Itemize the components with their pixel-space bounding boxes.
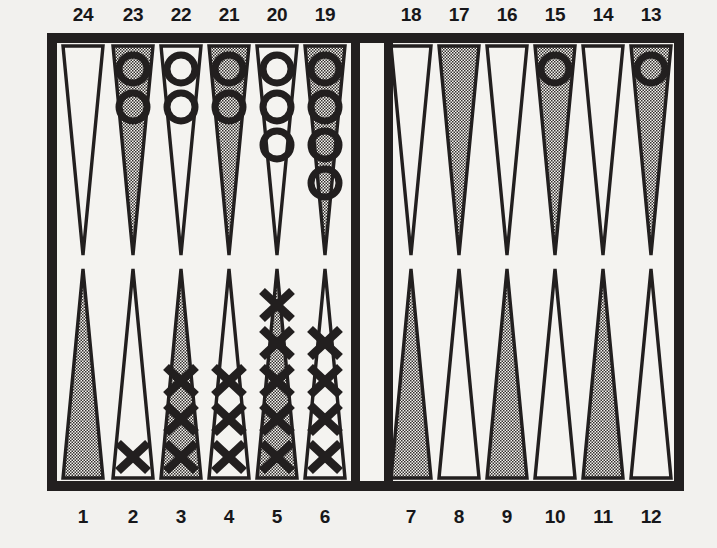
checker-x-point-3[interactable]	[161, 399, 201, 439]
checker-x-point-4[interactable]	[209, 437, 249, 477]
point-triangle	[439, 269, 479, 478]
quadrant-top-left	[57, 43, 351, 262]
point-number-15: 15	[535, 2, 575, 28]
checker-x-point-6[interactable]	[305, 361, 345, 401]
quadrant-bottom-left	[57, 262, 351, 481]
point-10[interactable]	[533, 266, 577, 481]
point-triangle	[535, 269, 575, 478]
checker-x-point-5[interactable]	[257, 323, 297, 363]
point-number-3: 3	[161, 504, 201, 530]
point-7[interactable]	[389, 266, 433, 481]
point-17[interactable]	[437, 43, 481, 258]
board-playing-surface	[57, 43, 674, 481]
checker-o-point-21[interactable]	[209, 87, 249, 127]
point-number-4: 4	[209, 504, 249, 530]
point-triangle	[63, 269, 103, 478]
checker-x-point-4[interactable]	[209, 361, 249, 401]
checker-x-point-6[interactable]	[305, 437, 345, 477]
center-bar	[351, 43, 393, 481]
point-number-21: 21	[209, 2, 249, 28]
board-frame	[47, 33, 684, 491]
checker-o-point-20[interactable]	[257, 125, 297, 165]
checker-o-point-22[interactable]	[161, 49, 201, 89]
checker-o-point-19[interactable]	[305, 87, 345, 127]
point-triangle	[487, 46, 527, 255]
point-number-23: 23	[113, 2, 153, 28]
checker-o-point-19[interactable]	[305, 125, 345, 165]
checker-o-point-19[interactable]	[305, 163, 345, 203]
point-number-7: 7	[391, 504, 431, 530]
point-number-17: 17	[439, 2, 479, 28]
point-14[interactable]	[581, 43, 625, 258]
point-number-11: 11	[583, 504, 623, 530]
checker-o-point-15[interactable]	[535, 49, 575, 89]
point-triangle	[487, 269, 527, 478]
checker-x-point-6[interactable]	[305, 399, 345, 439]
point-number-16: 16	[487, 2, 527, 28]
point-triangle	[583, 46, 623, 255]
checker-x-point-5[interactable]	[257, 285, 297, 325]
checker-x-point-5[interactable]	[257, 437, 297, 477]
point-11[interactable]	[581, 266, 625, 481]
checker-x-point-3[interactable]	[161, 361, 201, 401]
checker-o-point-13[interactable]	[631, 49, 671, 89]
point-number-6: 6	[305, 504, 345, 530]
point-number-9: 9	[487, 504, 527, 530]
point-number-10: 10	[535, 504, 575, 530]
point-number-12: 12	[631, 504, 671, 530]
point-triangle	[583, 269, 623, 478]
point-number-20: 20	[257, 2, 297, 28]
backgammon-board-figure: 242322212019181716151413 123456789101112	[0, 0, 717, 548]
checker-o-point-22[interactable]	[161, 87, 201, 127]
checker-o-point-20[interactable]	[257, 87, 297, 127]
point-number-14: 14	[583, 2, 623, 28]
point-number-13: 13	[631, 2, 671, 28]
checker-x-point-5[interactable]	[257, 361, 297, 401]
checker-x-point-6[interactable]	[305, 323, 345, 363]
point-number-1: 1	[63, 504, 103, 530]
point-9[interactable]	[485, 266, 529, 481]
checker-o-point-20[interactable]	[257, 49, 297, 89]
point-number-18: 18	[391, 2, 431, 28]
point-triangle	[63, 46, 103, 255]
point-number-24: 24	[63, 2, 103, 28]
top-point-number-row: 242322212019181716151413	[0, 2, 717, 28]
point-number-5: 5	[257, 504, 297, 530]
point-number-19: 19	[305, 2, 345, 28]
point-triangle	[391, 46, 431, 255]
checker-x-point-4[interactable]	[209, 399, 249, 439]
point-8[interactable]	[437, 266, 481, 481]
checker-o-point-23[interactable]	[113, 87, 153, 127]
quadrant-top-right	[393, 43, 674, 262]
point-triangle	[631, 269, 671, 478]
point-1[interactable]	[61, 266, 105, 481]
point-number-22: 22	[161, 2, 201, 28]
checker-x-point-5[interactable]	[257, 399, 297, 439]
checker-o-point-19[interactable]	[305, 49, 345, 89]
checker-o-point-21[interactable]	[209, 49, 249, 89]
checker-x-point-2[interactable]	[113, 437, 153, 477]
point-12[interactable]	[629, 266, 673, 481]
quadrant-bottom-right	[393, 262, 674, 481]
checker-o-point-23[interactable]	[113, 49, 153, 89]
point-16[interactable]	[485, 43, 529, 258]
point-number-2: 2	[113, 504, 153, 530]
point-number-8: 8	[439, 504, 479, 530]
point-18[interactable]	[389, 43, 433, 258]
point-triangle	[391, 269, 431, 478]
point-triangle	[439, 46, 479, 255]
checker-x-point-3[interactable]	[161, 437, 201, 477]
point-24[interactable]	[61, 43, 105, 258]
bottom-point-number-row: 123456789101112	[0, 504, 717, 530]
